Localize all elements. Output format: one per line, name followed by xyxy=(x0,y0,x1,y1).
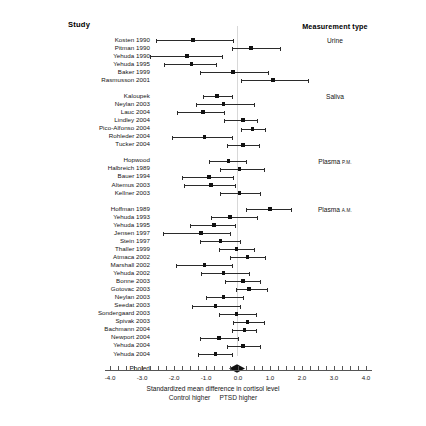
ci-cap-high xyxy=(224,111,225,115)
measurement-group-label-3: Plasma P.M. xyxy=(280,158,390,165)
ci-cap-high xyxy=(235,184,236,188)
point-estimate-marker xyxy=(241,279,245,283)
x-axis-minor-tick xyxy=(126,366,127,370)
x-axis-minor-tick xyxy=(118,366,119,370)
ci-cap-high xyxy=(257,216,258,220)
x-axis-tick-label: -3.0 xyxy=(128,374,156,381)
ci-cap-high xyxy=(260,192,261,196)
x-axis-minor-tick xyxy=(190,366,191,370)
ci-cap-high xyxy=(238,337,239,341)
ci-cap-high xyxy=(246,160,247,164)
confidence-interval-line xyxy=(232,48,280,49)
x-axis-minor-tick xyxy=(342,366,343,370)
ci-cap-low xyxy=(177,111,178,115)
ci-cap-low xyxy=(219,248,220,252)
study-label: Thaller 1999 xyxy=(115,246,150,252)
ci-cap-high xyxy=(256,313,257,317)
ci-cap-high xyxy=(257,119,258,123)
ci-cap-high xyxy=(254,103,255,107)
point-estimate-marker xyxy=(191,38,195,42)
ci-cap-high xyxy=(265,256,266,260)
ci-cap-low xyxy=(219,313,220,317)
study-label: Yehuda 1995 xyxy=(113,222,150,228)
ci-cap-low xyxy=(241,128,242,132)
x-axis-minor-tick xyxy=(326,366,327,370)
ci-cap-high xyxy=(254,248,255,252)
x-axis-minor-tick xyxy=(166,366,167,370)
study-label: Rohleder 2004 xyxy=(109,133,150,139)
x-axis-minor-tick xyxy=(358,366,359,370)
point-estimate-marker xyxy=(219,239,223,243)
ci-cap-high xyxy=(232,136,233,140)
study-label: Sondergaard 2003 xyxy=(98,310,150,316)
group-name-main: Plasma xyxy=(318,158,340,165)
ci-cap-low xyxy=(232,47,233,51)
confidence-interval-line xyxy=(220,169,263,170)
point-estimate-marker xyxy=(235,247,239,251)
point-estimate-marker xyxy=(227,159,231,163)
point-estimate-marker xyxy=(246,320,250,324)
x-axis-tick-label: -4.0 xyxy=(96,374,124,381)
group-name-suffix: P.M. xyxy=(342,160,352,165)
x-axis-minor-tick xyxy=(262,366,263,370)
study-label: Yehuda 1993 xyxy=(113,214,150,220)
point-estimate-marker xyxy=(241,344,245,348)
point-estimate-marker xyxy=(190,62,194,66)
point-estimate-marker xyxy=(246,255,250,259)
study-label: Lindley 2004 xyxy=(114,117,150,123)
point-estimate-marker xyxy=(185,54,189,58)
x-axis-minor-tick xyxy=(206,366,207,370)
ci-cap-high xyxy=(240,305,241,309)
measurement-group-label-1: Urine xyxy=(280,37,390,44)
point-estimate-marker xyxy=(247,287,251,291)
ci-cap-high xyxy=(233,39,234,43)
point-estimate-marker xyxy=(212,223,216,227)
study-label: Tucker 2004 xyxy=(115,141,150,147)
study-label: Bonne 2003 xyxy=(116,278,150,284)
point-estimate-marker xyxy=(222,295,226,299)
point-estimate-marker xyxy=(199,231,203,235)
x-axis-minor-tick xyxy=(142,366,143,370)
study-label: Kellner 2003 xyxy=(115,190,150,196)
study-label: Yehuda 2002 xyxy=(113,270,150,276)
ci-cap-high xyxy=(243,296,244,300)
ci-cap-low xyxy=(156,39,157,43)
ci-cap-low xyxy=(225,280,226,284)
study-label: Pitman 1990 xyxy=(115,45,150,51)
x-axis-minor-tick xyxy=(310,366,311,370)
ci-cap-low xyxy=(192,305,193,309)
study-label: Neylan 2003 xyxy=(115,101,150,107)
study-label: Stein 1997 xyxy=(120,238,150,244)
ci-cap-low xyxy=(211,216,212,220)
x-axis-minor-tick xyxy=(278,366,279,370)
study-label: Newport 2004 xyxy=(111,334,150,340)
ci-cap-low xyxy=(164,63,165,67)
point-estimate-marker xyxy=(214,352,218,356)
x-axis-tick-label: 0.0 xyxy=(224,374,252,381)
point-estimate-marker xyxy=(249,46,253,50)
study-label: Kaloupek xyxy=(124,93,150,99)
x-axis-minor-tick xyxy=(294,366,295,370)
ci-cap-high xyxy=(268,71,269,75)
ci-cap-high xyxy=(216,63,217,67)
ci-cap-high xyxy=(222,55,223,59)
ci-cap-low xyxy=(201,272,202,276)
forest-plot: StudyMeasurement typeKosten 1990Pitman 1… xyxy=(0,0,426,426)
ci-cap-low xyxy=(176,264,177,268)
x-axis-minor-tick xyxy=(222,366,223,370)
point-estimate-marker xyxy=(238,167,242,171)
ci-cap-high xyxy=(265,128,266,132)
study-label: Yehuda 1990 xyxy=(113,53,150,59)
point-estimate-marker xyxy=(241,143,245,147)
x-axis-minor-tick xyxy=(286,366,287,370)
study-label: Yehuda 2004 xyxy=(113,342,150,348)
ci-cap-high xyxy=(240,240,241,244)
x-axis-line xyxy=(105,370,372,371)
point-estimate-marker xyxy=(203,263,207,267)
study-label: Altemus 2003 xyxy=(112,182,150,188)
x-axis-minor-tick xyxy=(134,366,135,370)
study-label: Halbreich 1989 xyxy=(108,165,150,171)
ci-cap-high xyxy=(256,329,257,333)
ci-cap-high xyxy=(233,176,234,180)
ci-cap-low xyxy=(232,329,233,333)
